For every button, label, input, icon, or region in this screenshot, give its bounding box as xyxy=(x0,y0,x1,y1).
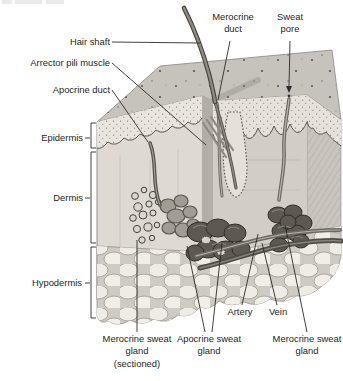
hypodermis-bracket xyxy=(91,247,96,318)
sweat-pore-opening xyxy=(288,95,291,98)
skin-diagram-figure: Hair shaft Merocrine duct Sweat pore Arr… xyxy=(0,0,343,381)
label-merocrine-sweat-gland: Merocrine sweat gland xyxy=(272,333,342,358)
label-hair-shaft: Hair shaft xyxy=(70,36,110,48)
hair-shaft-leader-line xyxy=(112,42,200,43)
label-apocrine-duct: Apocrine duct xyxy=(53,84,110,96)
label-epidermis: Epidermis xyxy=(41,132,83,144)
label-dermis: Dermis xyxy=(53,192,83,204)
label-merocrine-duct: Merocrine duct xyxy=(203,11,263,36)
label-arrector-pili-muscle: Arrector pili muscle xyxy=(30,57,110,69)
label-vein: Vein xyxy=(258,306,298,318)
dermis-bracket xyxy=(91,152,96,243)
label-sweat-pore: Sweat pore xyxy=(268,11,312,36)
label-hypodermis: Hypodermis xyxy=(32,277,82,289)
label-artery: Artery xyxy=(220,306,260,318)
label-merocrine-sweat-gland-sectioned: Merocrine sweat gland (sectioned) xyxy=(102,333,172,370)
label-apocrine-sweat-gland: Apocrine sweat gland xyxy=(167,333,251,358)
epidermis-bracket xyxy=(91,123,96,148)
